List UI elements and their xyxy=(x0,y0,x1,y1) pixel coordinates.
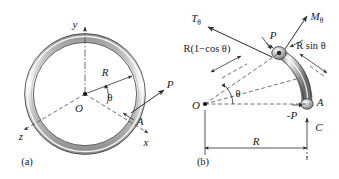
figure-root: y z x O R θ P A (a) xyxy=(0,0,339,179)
panel-a-caption: (a) xyxy=(21,156,33,168)
radius-to-a-dashed xyxy=(205,78,300,104)
torsion-label: Tθ xyxy=(191,12,201,27)
engineering-figure-svg: y z x O R θ P A (a) xyxy=(0,0,339,179)
moment-label: Mθ xyxy=(310,10,324,25)
dim-r-sin-label: R sin θ xyxy=(296,40,326,51)
axis-x-label: x xyxy=(143,136,149,148)
dim-r-one-minus-cos xyxy=(211,56,247,78)
reaction-c-label: C xyxy=(315,121,323,133)
angle-label-b: θ xyxy=(235,88,240,99)
panel-a: y z x O R θ P A (a) xyxy=(18,18,174,168)
axis-z-label: z xyxy=(18,130,24,142)
force-negative-p-label: -P xyxy=(287,109,298,121)
section-cut-cap xyxy=(272,47,286,60)
angle-arc-b xyxy=(221,83,233,104)
force-p-cut-label: P xyxy=(269,29,277,41)
force-p-label-a: P xyxy=(166,78,174,90)
origin-point-a xyxy=(83,92,87,96)
radius-to-cut-dashed xyxy=(205,53,279,104)
panel-b-caption: (b) xyxy=(197,156,210,168)
panel-b: Tθ Mθ P R(1−cos θ) R sin θ O θ A -P C R … xyxy=(184,10,327,168)
origin-label-b: O xyxy=(192,99,200,111)
origin-label-a: O xyxy=(75,102,83,114)
point-a-label-a: A xyxy=(136,115,144,127)
dim-r-one-minus-cos-label: R(1−cos θ) xyxy=(184,43,231,55)
angle-label-a: θ xyxy=(107,92,112,103)
dim-r-horizontal-label: R xyxy=(252,135,260,147)
point-a-label-b: A xyxy=(316,96,324,108)
origin-point-b xyxy=(203,102,207,106)
axis-y-label: y xyxy=(72,18,78,30)
radius-label-a: R xyxy=(101,66,109,78)
